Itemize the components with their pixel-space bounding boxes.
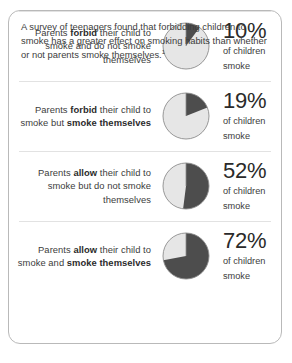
stat-sub-line1-2: of children [223,185,281,199]
stat-percent-2: 52% [223,159,281,183]
pie-chart-icon-3 [161,231,211,281]
table-row: Parents allow their child to smoke and s… [9,221,281,291]
table-row: Parents allow their child to smoke but d… [9,151,281,221]
infographic-card: Parents forbid their child to smoke and … [8,10,282,344]
pie-chart-icon-2 [161,161,211,211]
stat-percent-3: 72% [223,229,281,253]
stat-sub-line1-3: of children [223,255,281,269]
stat-sub-line2-1: smoke [223,130,281,144]
stat-sub-line1-1: of children [223,115,281,129]
row-label-1: Parents forbid their child to smoke but … [9,103,157,130]
stat-percent-1: 19% [223,89,281,113]
stat-cell-1: 19% of children smoke [215,89,281,144]
stat-sub-line2-0: smoke [223,60,281,74]
pie-cell-3 [157,231,215,281]
pie-cell-1 [157,91,215,141]
footnote-marker: 1 [162,49,165,55]
pie-chart-icon-1 [161,91,211,141]
stat-cell-2: 52% of children smoke [215,159,281,214]
stat-sub-line2-3: smoke [223,270,281,284]
row-label-2: Parents allow their child to smoke but d… [9,166,157,207]
footer-caption: A survey of teenagers found that forbidd… [9,11,281,62]
table-row: Parents forbid their child to smoke but … [9,81,281,151]
stat-sub-line2-2: smoke [223,200,281,214]
pie-cell-2 [157,161,215,211]
stat-cell-3: 72% of children smoke [215,229,281,284]
footer-text: A survey of teenagers found that forbidd… [21,21,267,60]
row-label-3: Parents allow their child to smoke and s… [9,243,157,270]
